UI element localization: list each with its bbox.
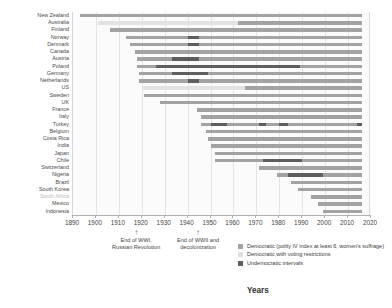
x-tick	[278, 215, 279, 218]
country-label: Turkey	[0, 122, 69, 127]
country-label: France	[0, 107, 69, 112]
x-tick	[72, 215, 73, 218]
country-label: Switzerland	[0, 165, 69, 170]
annotation-arrow-icon: ↑	[158, 229, 238, 237]
country-label: Australia	[0, 20, 69, 25]
x-tick-label: 2020	[357, 219, 383, 226]
country-label: Brazil	[0, 180, 69, 185]
country-label: Poland	[0, 64, 69, 69]
x-tick	[118, 215, 119, 218]
x-tick	[164, 215, 165, 218]
country-label: Japan	[0, 151, 69, 156]
x-axis-title: Years	[247, 286, 269, 295]
x-tick	[187, 215, 188, 218]
x-tick	[301, 215, 302, 218]
country-label: Sweden	[0, 93, 69, 98]
country-axis-labels: New ZealandAustraliaFinlandNorwayDenmark…	[0, 12, 69, 215]
legend-item-undem[interactable]: Undemocratic intervals	[238, 260, 390, 266]
country-label: Netherlands	[0, 78, 69, 83]
country-label: Costa Rica	[0, 136, 69, 141]
plot-background	[72, 12, 370, 215]
x-tick	[141, 215, 142, 218]
country-label: Germany	[0, 71, 69, 76]
x-tick	[347, 215, 348, 218]
annotation-text: End of WWII and decolonization	[158, 237, 238, 250]
x-tick	[232, 215, 233, 218]
country-label: Indonesia	[0, 209, 69, 214]
legend-item-dem[interactable]: Democratic (polity IV index at least 6, …	[238, 243, 390, 249]
country-label: Nigeria	[0, 172, 69, 177]
x-tick	[210, 215, 211, 218]
country-label: New Zealand	[0, 13, 69, 18]
legend-item-restricted[interactable]: Democratic with voting restrictions	[238, 251, 390, 257]
legend-label: Undemocratic intervals	[247, 260, 390, 266]
country-label: South Africa	[0, 194, 69, 199]
annotation-wwii: ↑End of WWII and decolonization	[158, 229, 238, 250]
country-label: Denmark	[0, 42, 69, 47]
x-tick	[95, 215, 96, 218]
x-axis-line	[72, 215, 370, 216]
legend-label: Democratic with voting restrictions	[247, 251, 390, 257]
country-label: Canada	[0, 49, 69, 54]
x-tick	[255, 215, 256, 218]
country-label: Chile	[0, 158, 69, 163]
legend-swatch-restricted	[238, 252, 243, 257]
x-tick	[324, 215, 325, 218]
country-label: Finland	[0, 27, 69, 32]
x-tick	[370, 215, 371, 218]
country-label: India	[0, 143, 69, 148]
country-label: Austria	[0, 56, 69, 61]
country-label: Italy	[0, 114, 69, 119]
country-label: Mexico	[0, 201, 69, 206]
country-label: South Korea	[0, 187, 69, 192]
legend-swatch-undem	[238, 261, 243, 266]
country-label: Norway	[0, 35, 69, 40]
democracy-timeline-chart: New ZealandAustraliaFinlandNorwayDenmark…	[0, 0, 392, 308]
legend-label: Democratic (polity IV index at least 6, …	[247, 243, 390, 249]
country-label: US	[0, 85, 69, 90]
chart-legend: Democratic (polity IV index at least 6, …	[238, 243, 390, 268]
legend-swatch-dem	[238, 244, 243, 249]
country-label: Belgium	[0, 129, 69, 134]
country-label: UK	[0, 100, 69, 105]
